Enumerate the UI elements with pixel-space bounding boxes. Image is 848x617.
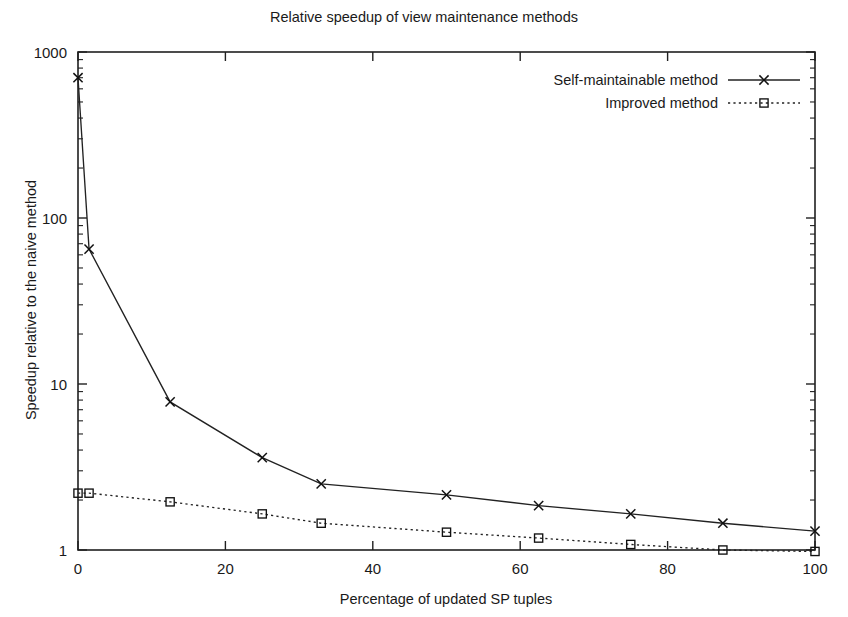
x-tick-label: 40 <box>364 560 381 577</box>
series-self-maintainable <box>73 73 819 536</box>
y-tick-label: 100 <box>42 210 67 227</box>
legend-label: Self-maintainable method <box>554 72 718 88</box>
y-tick-label: 10 <box>50 376 67 393</box>
y-tick-label: 1000 <box>34 44 67 61</box>
legend-item-self-maintainable[interactable]: Self-maintainable method <box>554 72 800 88</box>
series-layer <box>73 73 819 555</box>
legend-item-improved[interactable]: Improved method <box>605 95 800 111</box>
y-axis-title: Speedup relative to the naive method <box>23 180 39 420</box>
chart-legend: Self-maintainable methodImproved method <box>554 72 800 111</box>
chart-container: Relative speedup of view maintenance met… <box>0 0 848 617</box>
speedup-line-chart: Relative speedup of view maintenance met… <box>0 0 848 617</box>
x-tick-label: 0 <box>74 560 82 577</box>
x-tick-label: 20 <box>217 560 234 577</box>
marker-x-icon <box>166 397 175 406</box>
x-tick-label: 80 <box>659 560 676 577</box>
plot-frame <box>78 52 815 550</box>
chart-title: Relative speedup of view maintenance met… <box>270 9 578 25</box>
x-tick-label: 60 <box>512 560 529 577</box>
x-tick-label: 100 <box>802 560 827 577</box>
y-axis-ticks: 1101001000 <box>34 44 815 559</box>
y-tick-label: 1 <box>59 542 67 559</box>
legend-label: Improved method <box>605 95 718 111</box>
marker-x-icon <box>258 453 267 462</box>
x-axis-title: Percentage of updated SP tuples <box>340 591 553 607</box>
